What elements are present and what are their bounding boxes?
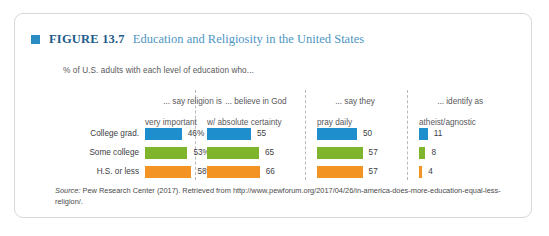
bar-group: 11 8 4 [419,124,442,181]
bar-college-grad [317,128,357,140]
column-separator [407,90,408,180]
chart-subtitle: % of U.S. adults with each level of educ… [63,66,254,75]
column-header: ... believe in God w/ absolute certainty [207,86,279,110]
bar-college-grad [207,128,251,140]
bar-some-college [419,147,425,159]
figure-title: Education and Religiosity in the United … [133,32,364,47]
source-text: Pew Research Center (2017). Retrieved fr… [55,186,501,206]
bar-college-grad [145,128,182,140]
source-note: Source: Pew Research Center (2017). Retr… [55,186,505,207]
figure-card: FIGURE 13.7 Education and Religiosity in… [14,13,532,218]
chart-column-believe-in-god: ... believe in God w/ absolute certainty… [207,86,279,181]
bar-row: 57 [317,143,378,162]
bar-value: 57 [369,167,378,176]
bar-group: 50 57 57 [317,124,378,181]
chart-column-religion-important: ... say religion is very important 46% 5… [145,86,199,181]
column-separator [305,90,306,180]
bar-value: 50 [363,129,372,138]
row-label: College grad. [43,124,139,143]
bar-value: 46% [188,129,204,138]
column-header: ... say religion is very important [145,86,199,110]
bar-row: 58% [145,162,214,181]
bar-hs-or-less [317,166,363,178]
chart-area: College grad. Some college H.S. or less … [15,86,532,181]
bar-row: 50 [317,124,378,143]
bar-value: 66 [266,167,275,176]
row-label-group: College grad. Some college H.S. or less [43,124,139,181]
column-header-line1: ... believe in God [225,97,286,106]
bar-row: 8 [419,143,442,162]
bar-value: 11 [434,129,443,138]
column-header-line1: ... say they [335,97,375,106]
source-prefix: Source: [55,186,80,195]
row-label: H.S. or less [43,162,139,181]
bar-row: 57 [317,162,378,181]
bar-row: 55 [207,124,275,143]
figure-bullet-icon [31,35,40,44]
column-header: ... identify as atheist/agnostic [419,86,489,110]
column-header-line1: ... identify as [437,97,483,106]
row-label: Some college [43,143,139,162]
bar-value: 55 [257,129,266,138]
bar-value: 65 [265,148,274,157]
figure-number: FIGURE 13.7 [49,32,125,47]
column-header: ... say they pray daily [317,86,385,110]
bar-some-college [145,147,187,159]
bar-some-college [317,147,363,159]
chart-column-pray-daily: ... say they pray daily 50 57 57 [317,86,385,181]
bar-value: 57 [369,148,378,157]
bar-hs-or-less [419,166,422,178]
bar-hs-or-less [145,166,191,178]
bar-some-college [207,147,259,159]
bar-college-grad [419,128,428,140]
bar-row: 66 [207,162,275,181]
bar-row: 53% [145,143,214,162]
bar-group: 46% 53% 58% [145,124,214,181]
bar-row: 46% [145,124,214,143]
bar-group: 55 65 66 [207,124,275,181]
bar-row: 11 [419,124,442,143]
bar-hs-or-less [207,166,260,178]
bar-row: 65 [207,143,275,162]
bar-row: 4 [419,162,442,181]
bar-value: 4 [428,167,433,176]
bar-value: 8 [431,148,436,157]
figure-header: FIGURE 13.7 Education and Religiosity in… [15,28,531,50]
chart-column-atheist-agnostic: ... identify as atheist/agnostic 11 8 4 [419,86,489,181]
